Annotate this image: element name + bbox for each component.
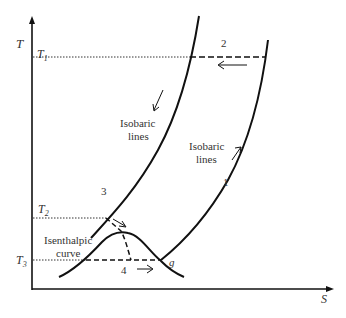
- t1-label: T1: [37, 47, 48, 63]
- isobaric-right-label-2: lines: [196, 153, 217, 165]
- y-axis-label: T: [16, 36, 24, 51]
- process-4-label: 4: [121, 264, 127, 276]
- process-1-label: 1: [223, 176, 229, 188]
- x-axis-arrow-icon: [326, 286, 334, 292]
- isobaric-left-label-2: lines: [128, 130, 149, 142]
- isenthalpic-label-2: curve: [56, 247, 81, 259]
- isenthalpic-label: Isenthalpic: [44, 234, 92, 246]
- isobaric-right-label: Isobaric: [189, 140, 225, 152]
- isobaric-left-label: Isobaric: [120, 117, 156, 129]
- t2-label: T2: [38, 202, 49, 218]
- t3-label: T3: [16, 253, 27, 269]
- point-g-label: g: [169, 256, 175, 268]
- ts-diagram: T S T1 T2 T3 Isobaric lines Isobaric lin…: [0, 0, 346, 318]
- x-axis-label: S: [321, 292, 327, 306]
- y-axis-arrow-icon: [29, 16, 35, 24]
- expansion-dashed-line: [106, 218, 131, 260]
- process-3-label: 3: [101, 185, 107, 197]
- process-2-label: 2: [221, 37, 227, 49]
